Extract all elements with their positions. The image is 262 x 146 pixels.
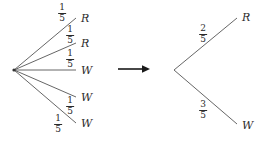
probability-tree-diagram: 1 5 1 5 1 5 1 5 1 5 R R W W W 2 5 3 5 R …	[0, 0, 262, 146]
diagram-lines	[0, 0, 262, 146]
left-branch-2-probability: 1 5	[66, 25, 74, 45]
left-outcome-1: R	[81, 13, 89, 24]
left-branch-4-line	[14, 70, 76, 97]
transform-arrow	[118, 65, 150, 73]
arrow-head-icon	[142, 65, 150, 73]
left-outcome-4: W	[81, 92, 92, 103]
left-outcome-5: W	[81, 118, 92, 129]
left-tree-root-node	[12, 68, 15, 71]
left-outcome-2: R	[81, 38, 89, 49]
right-branch-2-probability: 3 5	[199, 100, 207, 120]
left-branch-4-probability: 1 5	[66, 96, 74, 116]
right-outcome-1: R	[242, 12, 250, 23]
left-outcome-3: W	[81, 65, 92, 76]
left-branch-1-probability: 1 5	[58, 3, 66, 23]
left-branch-3-probability: 1 5	[66, 49, 74, 69]
right-branch-1-probability: 2 5	[199, 24, 207, 44]
left-branch-5-probability: 1 5	[54, 114, 62, 134]
right-outcome-2: W	[242, 120, 253, 131]
